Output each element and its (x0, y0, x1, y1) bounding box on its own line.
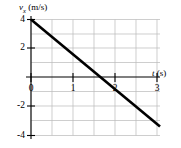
y-tick-label-4: 4 (12, 15, 25, 25)
x-axis-label-unit: (s) (157, 68, 167, 78)
x-tick-label-0: 0 (25, 84, 37, 94)
x-tick-label-2: 2 (109, 84, 121, 94)
velocity-time-graph: vx (m/s) t (s) 0 1 2 3 4 2 -2 -4 (0, 0, 181, 148)
y-axis-label: vx (m/s) (19, 3, 47, 14)
y-tick-label-2: 2 (12, 43, 25, 53)
y-axis-label-subscript: x (23, 7, 26, 14)
x-tick-label-1: 1 (67, 84, 79, 94)
x-axis-label: t (s) (152, 69, 166, 78)
x-axis-label-symbol: t (152, 68, 155, 78)
velocity-line (31, 20, 160, 127)
y-tick-label-minus4: -4 (8, 131, 25, 141)
x-tick-label-3: 3 (151, 84, 163, 94)
y-tick-label-minus2: -2 (8, 101, 25, 111)
y-axis-label-unit: (m/s) (28, 2, 47, 12)
